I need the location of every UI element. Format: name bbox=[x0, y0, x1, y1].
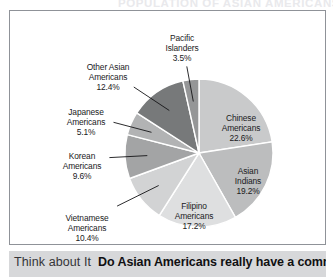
clipped-heading-ghost: POPULATION OF ASIAN AMERICANS bbox=[118, 0, 333, 8]
pie-chart: ChineseAmericans22.6%AsianIndians19.2%Fi… bbox=[10, 11, 325, 244]
pie-label: PacificIslanders3.5% bbox=[165, 33, 198, 63]
caption-body: Do Asian Americans really have a common bbox=[98, 255, 326, 269]
caption-bar: Think about It Do Asian Americans really… bbox=[9, 251, 326, 277]
pie-label: VietnameseAmericans10.4% bbox=[65, 213, 109, 243]
pie-label: KoreanAmericans9.6% bbox=[63, 151, 102, 181]
caption-text: Think about It Do Asian Americans really… bbox=[14, 255, 326, 269]
figure-page: POPULATION OF ASIAN AMERICANS ChineseAme… bbox=[0, 0, 336, 278]
pie-label: AsianIndians19.2% bbox=[235, 166, 261, 196]
chart-frame: ChineseAmericans22.6%AsianIndians19.2%Fi… bbox=[9, 10, 326, 245]
caption-lead: Think about It bbox=[14, 255, 91, 269]
pie-label: Other AsianAmericans12.4% bbox=[87, 62, 130, 92]
pie-label: JapaneseAmericans5.1% bbox=[67, 107, 106, 137]
